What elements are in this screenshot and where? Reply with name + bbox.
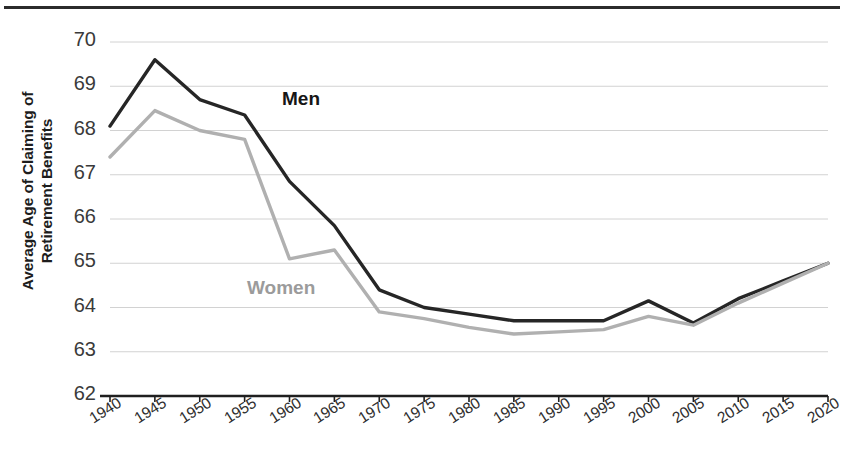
y-axis-tick-label: 65 (52, 249, 96, 272)
plot-svg (0, 0, 844, 452)
series-annotation-men: Men (282, 88, 320, 110)
series-line-women (110, 111, 828, 334)
y-axis-tick-label: 66 (52, 205, 96, 228)
y-axis-tick-label: 67 (52, 161, 96, 184)
y-axis-tick-label: 69 (52, 72, 96, 95)
chart-figure: Average Age of Claiming of Retirement Be… (0, 0, 844, 452)
y-axis-tick-label: 63 (52, 338, 96, 361)
plot-area (0, 0, 844, 452)
y-axis-tick-label: 68 (52, 117, 96, 140)
series-line-men (110, 60, 828, 323)
series-annotation-women: Women (247, 277, 315, 299)
y-axis-tick-label: 64 (52, 294, 96, 317)
y-axis-tick-label: 62 (52, 382, 96, 405)
y-axis-tick-label: 70 (52, 28, 96, 51)
